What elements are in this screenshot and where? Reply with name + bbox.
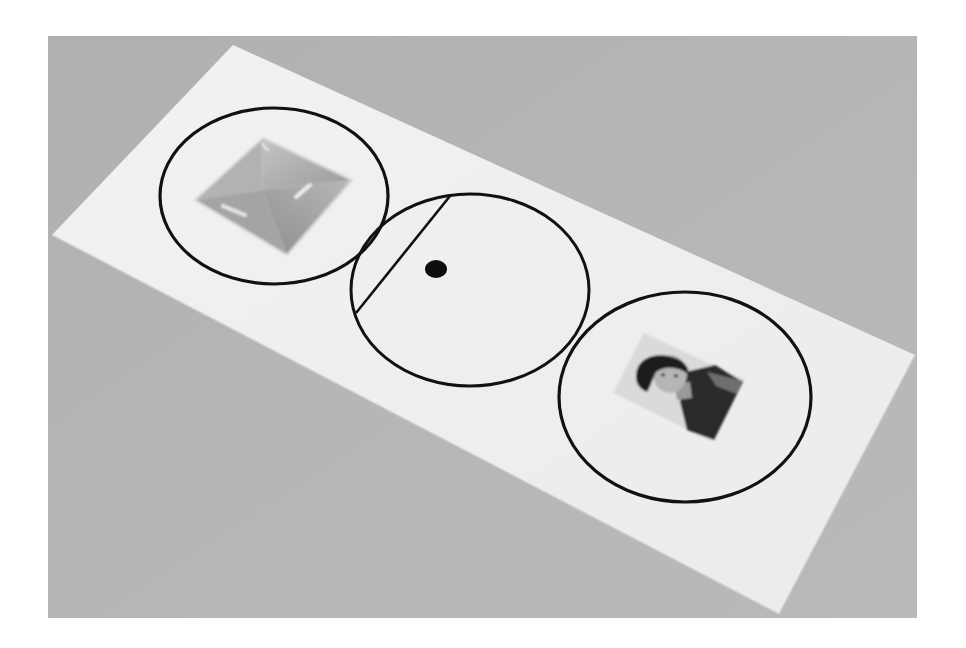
scene-canvas [0,0,966,648]
center-dot-icon [425,260,447,278]
photo-scene: Photograph of a white paper strip lying … [0,0,966,648]
